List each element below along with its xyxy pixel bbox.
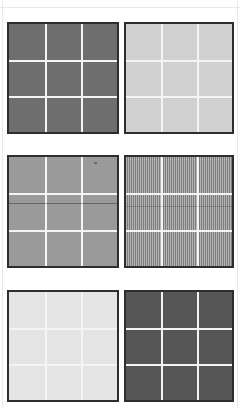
swatch-fill bbox=[126, 292, 232, 400]
swatch-fill bbox=[126, 24, 232, 132]
page-canvas bbox=[0, 0, 240, 409]
swatch-panel-bottom-right[interactable] bbox=[124, 290, 234, 402]
swatch-panel-top-left[interactable] bbox=[7, 22, 119, 134]
swatch-fill bbox=[126, 157, 232, 266]
swatch-fill bbox=[9, 292, 117, 400]
swatch-fill bbox=[9, 157, 117, 266]
swatch-panel-bottom-left[interactable] bbox=[7, 290, 119, 402]
swatch-fill bbox=[9, 24, 117, 132]
swatch-panel-grid bbox=[0, 0, 240, 409]
swatch-panel-top-right[interactable] bbox=[124, 22, 234, 134]
swatch-panel-middle-right[interactable] bbox=[124, 155, 234, 268]
swatch-panel-middle-left[interactable] bbox=[7, 155, 119, 268]
